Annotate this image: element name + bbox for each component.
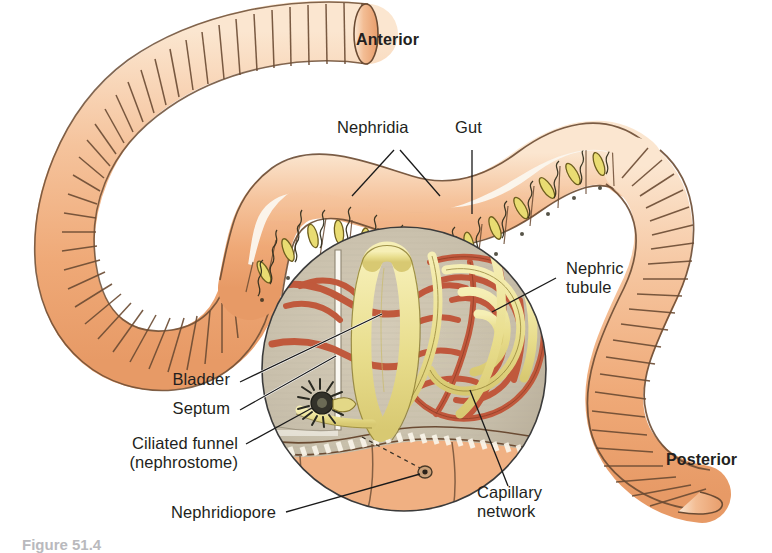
label-bladder: Bladder [36,370,230,389]
label-capillary-network-line2: network [477,502,535,521]
label-nephridia: Nephridia [337,118,409,137]
label-septum: Septum [36,399,230,418]
label-posterior: Posterior [666,450,737,469]
label-gut: Gut [455,118,482,137]
label-capillary-network-line1: Capillary [477,483,542,502]
label-ciliated-funnel-line1: Ciliated funnel [20,434,238,453]
label-nephric-tubule-line2: tubule [566,278,612,297]
label-anterior: Anterior [356,30,419,49]
label-nephric-tubule-line1: Nephric [566,259,624,278]
figure-caption: Figure 51.4 [22,536,101,553]
label-nephridiopore: Nephridiopore [60,503,276,522]
label-ciliated-funnel-line2: (nephrostome) [20,453,238,472]
